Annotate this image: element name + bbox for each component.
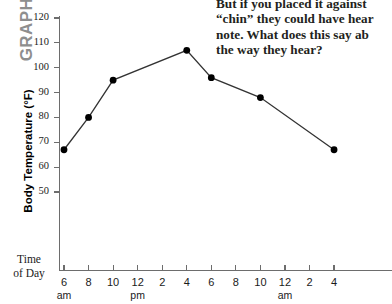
data-point bbox=[257, 94, 264, 101]
data-point bbox=[208, 74, 215, 81]
data-point bbox=[331, 146, 338, 153]
data-point bbox=[85, 114, 92, 121]
line-chart-plot bbox=[0, 0, 392, 304]
data-point bbox=[110, 77, 117, 84]
data-point bbox=[61, 146, 68, 153]
graph-a-page: GRAPH A But if you placed it against“chi… bbox=[0, 0, 392, 304]
data-point bbox=[183, 47, 190, 54]
data-line bbox=[64, 50, 334, 149]
